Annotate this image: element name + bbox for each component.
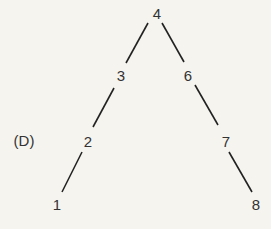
tree-node-1: 1: [53, 197, 61, 212]
tree-edge-3-2: [93, 88, 114, 127]
tree-edge-4-6: [162, 23, 184, 62]
tree-edge-6-7: [195, 85, 218, 125]
tree-edge-2-1: [62, 152, 82, 192]
tree-option-label: (D): [14, 133, 35, 148]
tree-diagram: [0, 0, 271, 229]
tree-node-7: 7: [222, 134, 230, 149]
tree-node-8: 8: [252, 197, 260, 212]
tree-node-2: 2: [84, 134, 92, 149]
tree-node-6: 6: [184, 68, 192, 83]
tree-node-3: 3: [117, 68, 125, 83]
tree-edge-7-8: [229, 152, 252, 192]
tree-edge-4-3: [126, 23, 148, 63]
tree-node-4: 4: [153, 6, 161, 21]
